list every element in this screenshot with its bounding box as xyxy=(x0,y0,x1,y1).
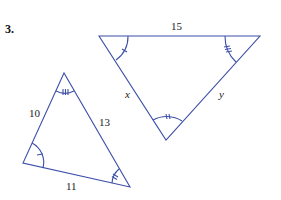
angle-arc-bottom-left xyxy=(32,143,44,168)
label-side-10: 10 xyxy=(29,107,41,119)
label-side-11: 11 xyxy=(66,180,77,192)
problem-number: 3. xyxy=(5,22,14,36)
triangle-small xyxy=(23,73,130,187)
angle-tick-top-right-1 xyxy=(224,46,230,47)
figure-canvas: 3. 15 x y 10 13 11 xyxy=(0,0,281,200)
angle-tick-top-right-3 xyxy=(226,51,232,52)
angle-tick-bottom-1 xyxy=(166,114,167,119)
label-side-13: 13 xyxy=(99,116,111,128)
triangle-small-outline xyxy=(23,73,130,187)
label-side-y: y xyxy=(218,88,224,100)
angle-arc-top-left xyxy=(116,36,128,60)
label-side-x: x xyxy=(124,88,130,100)
label-side-15: 15 xyxy=(171,20,183,32)
angle-tick-top-right-2 xyxy=(225,49,231,50)
triangle-large xyxy=(99,36,260,140)
angle-tick-bottom-2 xyxy=(169,114,170,119)
triangle-large-outline xyxy=(99,36,260,140)
